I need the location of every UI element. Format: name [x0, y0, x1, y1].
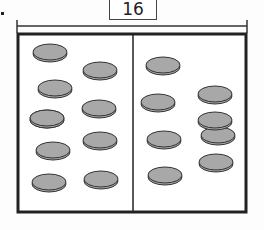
- counter: [146, 57, 180, 75]
- bar-model-diagram: [0, 0, 264, 230]
- counter: [32, 174, 66, 192]
- counter: [148, 167, 182, 185]
- counter: [147, 131, 181, 149]
- bracket: [17, 20, 247, 33]
- counter: [84, 171, 118, 189]
- counter: [30, 110, 64, 128]
- counter: [198, 112, 232, 130]
- counter: [198, 86, 232, 104]
- counter: [199, 154, 233, 172]
- counter: [38, 80, 72, 98]
- counter: [83, 62, 117, 80]
- counter: [33, 44, 67, 62]
- counter: [36, 142, 70, 160]
- counter: [141, 94, 175, 112]
- counter: [83, 132, 117, 150]
- counter: [82, 100, 116, 118]
